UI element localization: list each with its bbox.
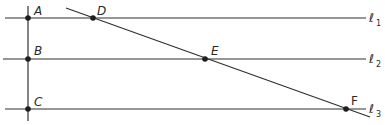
- label-f: F: [351, 94, 358, 108]
- point-d: [90, 15, 96, 21]
- point-a: [25, 15, 31, 21]
- label-b: B: [34, 44, 42, 58]
- label-l2: ℓ: [368, 52, 374, 66]
- label-d: D: [97, 4, 106, 18]
- label-l3: ℓ: [368, 102, 374, 116]
- parallel-lines-diagram: A B C D E F ℓ 1 ℓ 2 ℓ 3: [0, 0, 385, 125]
- label-l2-subscript: 2: [376, 60, 381, 69]
- label-l3-subscript: 3: [376, 110, 381, 119]
- point-e: [202, 56, 208, 62]
- label-c: C: [34, 95, 43, 109]
- point-f: [343, 106, 349, 112]
- label-l1: ℓ: [368, 11, 374, 25]
- point-b: [25, 56, 31, 62]
- point-c: [25, 106, 31, 112]
- slanted-transversal: [66, 8, 370, 117]
- label-a: A: [33, 4, 42, 18]
- label-e: E: [211, 44, 219, 58]
- label-l1-subscript: 1: [376, 19, 381, 28]
